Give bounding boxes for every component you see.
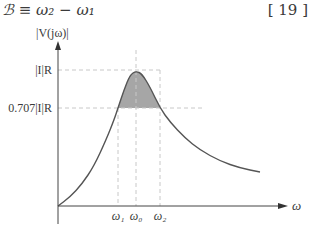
y-axis-arrow <box>55 41 61 50</box>
x-axis-label: ω <box>292 198 301 213</box>
resonance-chart: |V(jω)| ω |I|R 0.707|I|R ω₁ ω₀ ω₂ <box>0 0 312 236</box>
x-tick-omega2: ω₂ <box>154 209 167 223</box>
resonance-curve <box>58 72 260 206</box>
y-axis-label: |V(jω)| <box>36 26 69 40</box>
x-axis-arrow <box>278 203 288 209</box>
x-tick-omega1: ω₁ <box>112 209 125 223</box>
x-tick-omega0: ω₀ <box>130 209 143 223</box>
y-tick-peak: |I|R <box>35 63 52 77</box>
y-tick-halfpower: 0.707|I|R <box>8 101 52 115</box>
